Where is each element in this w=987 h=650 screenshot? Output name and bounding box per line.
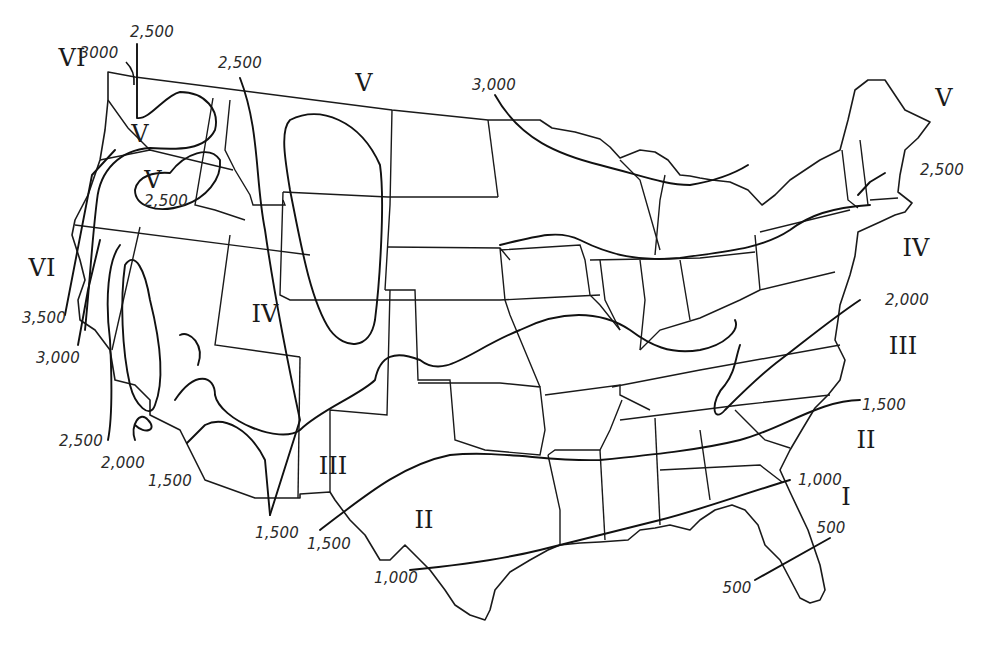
isoline-label: 1,500 [148,472,192,490]
isolines [65,44,885,580]
us-outline [72,72,930,620]
isoline-label: 3,000 [36,349,80,367]
zone-label-v-wa: V [131,120,148,148]
isoline-label: 2,000 [101,454,145,472]
isoline-label: 1,500 [307,535,351,553]
zone-label-ii-east: II [857,426,876,454]
label-leader [126,62,134,85]
isoline-label: 1,500 [862,396,906,414]
zone-label-iii-east: III [889,332,917,360]
zone-label-v-or: V [144,166,161,194]
isoline-label: 2,500 [920,161,964,179]
zone-label-iii-sw: III [319,452,347,480]
isoline-label: 3,500 [22,309,66,327]
zone-label-i-fl: I [841,483,850,511]
isoline-label: 2,500 [59,432,103,450]
state-borders [75,98,898,545]
zone-label-iv-west: IV [252,300,279,328]
us-isoline-map [0,0,987,650]
isoline-label: 3,000 [472,76,516,94]
isoline-label: 2,500 [144,192,188,210]
isoline-label: 2,500 [130,23,174,41]
isoline-label: 1,000 [798,471,842,489]
isoline-label: 1,500 [255,524,299,542]
isoline-label: 500 [816,519,845,537]
zone-label-iv-east: IV [903,234,930,262]
isoline-label: 1,000 [374,569,418,587]
zone-label-v-north: V [355,69,372,97]
isoline-label: 2,500 [218,54,262,72]
zone-label-vi-ca: VI [29,254,56,282]
isoline-label: 500 [722,579,751,597]
zone-label-ii-tx: II [415,506,434,534]
isoline-label: 3000 [80,44,119,62]
isoline-label: 2,000 [885,291,929,309]
zone-label-v-maine: V [935,84,952,112]
